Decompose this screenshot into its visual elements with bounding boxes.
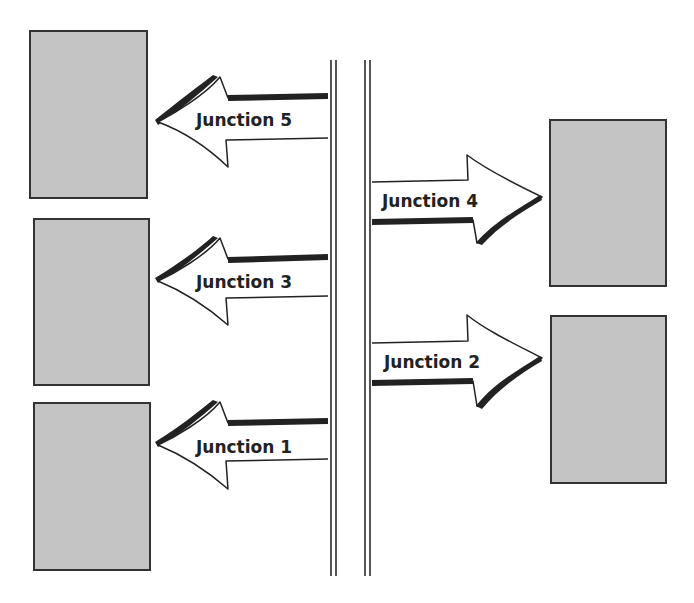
- road-left-edge-inner: [335, 60, 337, 576]
- junction-4-arrow: Junction 4: [372, 150, 547, 250]
- building-right-top: [549, 119, 667, 287]
- junction-2-label: Junction 2: [383, 352, 480, 372]
- road-right-edge-inner: [364, 60, 366, 576]
- building-left-middle: [33, 218, 150, 386]
- junction-4-label: Junction 4: [381, 191, 478, 211]
- junction-2-arrow: Junction 2: [372, 313, 547, 413]
- building-left-bottom: [33, 402, 151, 571]
- junction-5-label: Junction 5: [195, 110, 292, 130]
- arrow-top-edge: [228, 421, 328, 423]
- arrow-bottom-edge: [372, 220, 473, 222]
- building-right-bottom: [550, 315, 667, 484]
- building-left-top: [29, 30, 148, 199]
- arrow-bottom-edge: [372, 381, 473, 383]
- junction-5-arrow: Junction 5: [150, 65, 335, 170]
- junction-3-label: Junction 3: [195, 272, 292, 292]
- road-right-edge-outer: [369, 60, 371, 576]
- arrow-top-edge: [228, 96, 328, 98]
- junction-1-label: Junction 1: [195, 437, 292, 457]
- arrow-top-edge: [228, 257, 328, 260]
- junction-1-arrow: Junction 1: [150, 392, 335, 492]
- junction-3-arrow: Junction 3: [150, 228, 335, 328]
